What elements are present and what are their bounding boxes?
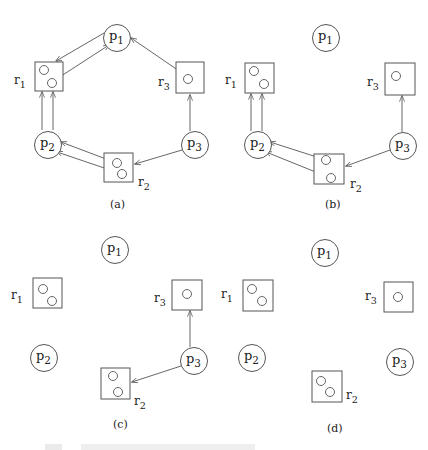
resource-label: r1 [14,73,26,90]
process-p2: p2 [245,132,272,159]
process-p1: p1 [312,240,339,267]
resource-box [33,278,62,308]
resource-instance-dot [317,377,326,386]
resource-label: r2 [346,388,358,405]
resource-instance-dot [48,297,57,306]
resource-label: r3 [158,75,170,92]
resource-instance-dot [48,79,57,88]
request-edge-arrow [56,33,104,61]
resource-label: r1 [11,288,23,305]
resource-instance-dot [40,66,49,75]
process-p3: p3 [181,348,208,375]
figure-caption-cutoff [45,444,255,450]
resource-r1: r1 [225,63,274,93]
resource-instance-dot [392,72,401,81]
panel-a: r1r2r3p1p2p3(a) [14,25,209,212]
resource-instance-dot [326,388,335,397]
resource-r2: r2 [314,154,362,194]
process-p1: p1 [313,25,340,52]
process-p2: p2 [31,345,58,372]
resource-r3: r3 [158,62,204,93]
resource-r3: r3 [367,63,415,95]
resource-r1: r1 [11,278,62,308]
process-p2: p2 [239,345,266,372]
resource-box [243,280,273,311]
resource-label: r3 [365,289,377,306]
resource-instance-dot [109,372,118,381]
resource-r3: r3 [154,280,202,310]
resource-label: r1 [221,287,233,304]
request-edge-arrow [346,150,390,166]
resource-instance-dot [118,170,127,179]
resource-instance-dot [322,156,331,165]
resource-instance-dot [113,159,122,168]
resource-instance-dot [248,285,257,294]
request-edge-arrow [135,150,182,164]
resource-label: r2 [350,177,362,194]
panel-label: (b) [325,198,341,211]
process-p3: p3 [390,133,417,160]
resource-allocation-diagram: r1r2r3p1p2p3(a)r1r2r3p1p2p3(b)r1r2r3p1p2… [0,0,428,450]
resource-box [385,63,415,95]
panel-c: r1r2r3p1p2p3(c) [11,237,208,432]
resource-r2: r2 [101,368,146,411]
resource-label: r1 [225,73,237,90]
resource-instance-dot [258,297,267,306]
request-edge-arrow [132,366,181,382]
resource-r2: r2 [104,153,150,192]
process-p1: p1 [104,25,131,52]
panel-d: r1r2r3p1p2p3(d) [221,240,414,436]
resource-instance-dot [327,174,336,183]
resource-label: r2 [134,394,146,411]
panel-label: (c) [113,418,128,431]
resource-box [245,63,274,93]
resource-instance-dot [250,67,259,76]
resource-r1: r1 [14,62,63,91]
resource-instance-dot [184,75,193,84]
resource-instance-dot [183,290,192,299]
process-p3: p3 [182,132,209,159]
panel-b: r1r2r3p1p2p3(b) [225,25,417,212]
resource-instance-dot [39,285,48,294]
resource-r2: r2 [312,371,358,405]
resource-box [312,371,342,402]
process-p3: p3 [387,349,414,376]
resource-instance-dot [394,293,403,302]
panel-label: (a) [110,198,125,211]
diagram-panels: r1r2r3p1p2p3(a)r1r2r3p1p2p3(b)r1r2r3p1p2… [11,25,417,436]
resource-r3: r3 [365,282,413,312]
process-p2: p2 [35,132,62,159]
resource-label: r3 [367,75,379,92]
resource-instance-dot [114,388,123,397]
process-p1: p1 [102,237,129,264]
resource-label: r2 [138,175,150,192]
resource-instance-dot [260,80,269,89]
panel-label: (d) [327,422,343,435]
resource-r1: r1 [221,280,273,311]
resource-label: r3 [154,291,166,308]
